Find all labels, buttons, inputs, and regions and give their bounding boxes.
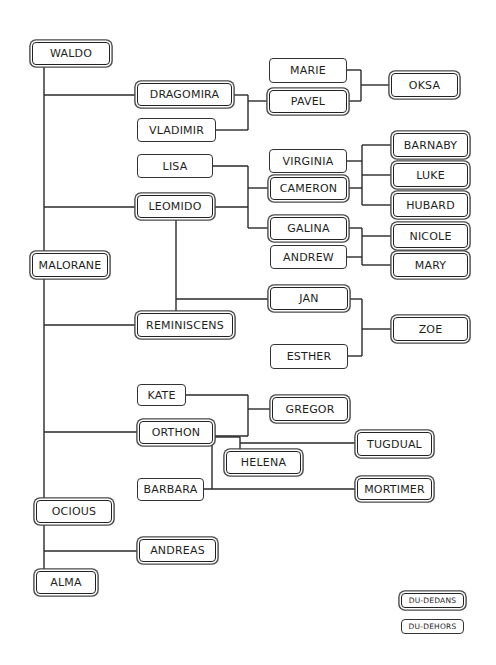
person-node-andrew: ANDREW bbox=[270, 245, 347, 269]
person-node-helena: HELENA bbox=[226, 451, 301, 474]
person-node-andreas: ANDREAS bbox=[139, 539, 216, 562]
person-node-cameron: CAMERON bbox=[270, 177, 347, 200]
person-node-waldo: WALDO bbox=[32, 42, 110, 65]
person-node-mortimer: MORTIMER bbox=[357, 478, 432, 500]
person-node-galina: GALINA bbox=[270, 217, 347, 240]
person-node-alma: ALMA bbox=[36, 571, 96, 594]
person-node-pavel: PAVEL bbox=[269, 90, 347, 113]
family-tree-diagram: WALDODRAGOMIRAVLADIMIRMARIEPAVELOKSALISA… bbox=[0, 0, 496, 665]
person-node-barnaby: BARNABY bbox=[393, 133, 468, 157]
person-node-oksa: OKSA bbox=[391, 73, 458, 97]
legend-du-dedans: DU-DEDANS bbox=[401, 593, 464, 608]
person-node-nicole: NICOLE bbox=[393, 224, 468, 248]
person-node-gregor: GREGOR bbox=[272, 397, 348, 421]
person-node-lisa: LISA bbox=[137, 154, 213, 178]
person-node-malorane: MALORANE bbox=[32, 253, 108, 277]
person-node-esther: ESTHER bbox=[270, 344, 348, 369]
legend-du-dehors: DU-DEHORS bbox=[401, 619, 464, 634]
person-node-mary: MARY bbox=[393, 253, 468, 277]
person-node-kate: KATE bbox=[137, 384, 186, 406]
person-node-zoe: ZOE bbox=[393, 317, 468, 341]
person-node-tugdual: TUGDUAL bbox=[357, 432, 432, 456]
person-node-marie: MARIE bbox=[269, 58, 347, 83]
person-node-virginia: VIRGINIA bbox=[269, 149, 347, 173]
person-node-reminiscens: REMINISCENS bbox=[137, 313, 233, 337]
person-node-leomido: LEOMIDO bbox=[137, 195, 213, 218]
person-node-jan: JAN bbox=[270, 287, 348, 310]
person-node-ocious: OCIOUS bbox=[36, 500, 112, 523]
person-node-barbara: BARBARA bbox=[137, 478, 204, 501]
person-node-dragomira: DRAGOMIRA bbox=[137, 83, 232, 106]
person-node-orthon: ORTHON bbox=[139, 421, 213, 444]
person-node-luke: LUKE bbox=[393, 163, 468, 187]
person-node-vladimir: VLADIMIR bbox=[137, 118, 216, 142]
person-node-hubard: HUBARD bbox=[393, 193, 468, 217]
